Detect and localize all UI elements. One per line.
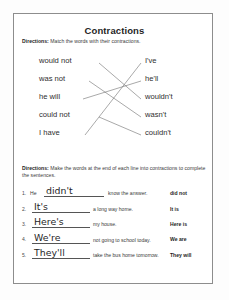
sentence-row: 5.They'lltake the bus home tomorrow.They… (22, 248, 208, 263)
match-right-word[interactable]: he'll (145, 70, 207, 88)
match-right-word[interactable]: wouldn't (145, 88, 207, 106)
answer-text[interactable]: It's (34, 201, 48, 212)
sentence-cue-words: Here is (170, 221, 187, 227)
answer-text[interactable]: Here's (34, 216, 64, 227)
answer-blank-line[interactable] (32, 227, 90, 228)
match-left-column: would notwas nothe willcould notI have (39, 52, 101, 142)
answer-text[interactable]: We're (34, 232, 60, 243)
answer-blank-line[interactable] (32, 243, 90, 244)
match-left-word[interactable]: could not (39, 106, 101, 124)
sentence-suffix: a long way home. (93, 206, 133, 212)
match-right-word[interactable]: couldn't (145, 124, 207, 142)
directions-matching: Directions: Match the words with their c… (22, 38, 212, 45)
sentence-prefix: He (30, 190, 37, 196)
sentence-suffix: know the answer. (108, 190, 147, 196)
sentence-cue-words: It is (170, 206, 179, 212)
sentence-cue-words: They will (170, 252, 192, 258)
sentence-number: 4. (22, 236, 26, 242)
match-right-column: I'vehe'llwouldn'twasn'tcouldn't (145, 52, 207, 142)
sentence-suffix: my house. (93, 221, 117, 227)
sentence-number: 5. (22, 252, 26, 258)
sentence-row: 1.Hedidn'tknow the answer.did not (22, 186, 208, 201)
answer-blank-line[interactable] (32, 258, 90, 259)
directions-fill-in: Directions: Make the words at the end of… (22, 165, 206, 179)
worksheet-page: Contractions Directions: Match the words… (0, 0, 229, 300)
page-title: Contractions (0, 25, 229, 36)
sentence-suffix: not going to school today. (93, 237, 151, 243)
answer-blank-line[interactable] (32, 212, 90, 213)
match-left-word[interactable]: was not (39, 70, 101, 88)
directions-text: Make the words at the end of each line i… (22, 165, 205, 178)
match-left-word[interactable]: would not (39, 52, 101, 70)
sentence-row: 4.We'renot going to school today.We are (22, 232, 208, 247)
match-left-word[interactable]: I have (39, 124, 101, 142)
matching-exercise: would notwas nothe willcould notI have I… (13, 52, 213, 144)
sentence-cue-words: We are (170, 236, 187, 242)
answer-text[interactable]: didn't (46, 185, 73, 196)
sentence-number: 2. (22, 206, 26, 212)
sentence-number: 3. (22, 221, 26, 227)
sentence-number: 1. (22, 190, 26, 196)
sentence-suffix: take the bus home tomorrow. (93, 252, 159, 258)
directions-text: Match the words with their contractions. (49, 38, 141, 44)
sentence-row: 2.It'sa long way home.It is (22, 201, 208, 216)
directions-label: Directions: (22, 165, 49, 171)
sentence-row: 3.Here'smy house.Here is (22, 217, 208, 232)
answer-text[interactable]: They'll (34, 247, 65, 258)
match-connector-line (99, 117, 141, 135)
match-right-word[interactable]: I've (145, 52, 207, 70)
fill-in-exercise: 1.Hedidn'tknow the answer.did not2.It'sa… (22, 186, 208, 263)
directions-label: Directions: (22, 38, 49, 44)
match-connector-line (99, 63, 141, 99)
sentence-cue-words: did not (170, 190, 187, 196)
answer-blank-line[interactable] (44, 196, 104, 197)
match-left-word[interactable]: he will (39, 88, 101, 106)
match-right-word[interactable]: wasn't (145, 106, 207, 124)
